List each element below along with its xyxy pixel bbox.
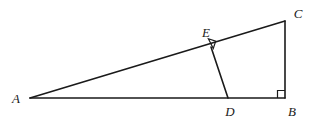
right-angle-marker-at-B [278, 91, 286, 99]
geometry-canvas [0, 0, 314, 121]
segment-ED [211, 47, 228, 98]
geometry-diagram: A B C D E [0, 0, 314, 121]
vertex-label-C: C [294, 7, 303, 20]
segment-AC [30, 21, 285, 98]
vertex-label-E: E [202, 26, 210, 39]
vertex-label-A: A [12, 92, 20, 105]
vertex-label-D: D [225, 105, 234, 118]
vertex-label-B: B [288, 105, 296, 118]
